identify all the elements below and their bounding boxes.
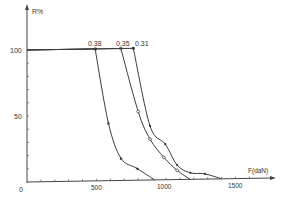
dot-marker-icon: [164, 143, 166, 145]
x-axis-label: F(daN): [248, 167, 268, 175]
dot-marker-icon: [176, 164, 178, 166]
circle-marker-icon: [137, 110, 140, 113]
series-label-0.31: 0.31: [135, 40, 149, 47]
origin-label: 0: [19, 186, 23, 193]
y-tick-label-50: 50: [14, 113, 22, 120]
circle-marker-icon: [149, 138, 152, 141]
x-tick-label-1000: 1000: [157, 183, 172, 190]
y-axis-label: R%: [32, 8, 43, 15]
x-tick-label-1500: 1500: [228, 182, 243, 189]
x-axis-arrow-icon: [270, 176, 276, 180]
dot-marker-icon: [149, 125, 151, 127]
series-line-0.31: [27, 48, 222, 179]
series-label-0.38: 0.38: [88, 40, 102, 47]
x-tick-label-500: 500: [91, 184, 102, 191]
chart: R% F(daN) 0 100 50 500 1000 1500 0.38 0.…: [0, 0, 287, 199]
dot-marker-icon: [189, 172, 191, 174]
axes: [25, 4, 276, 183]
series-line-0.35: [27, 48, 190, 179]
y-axis-arrow-icon: [25, 4, 29, 10]
dot-marker-icon: [204, 173, 206, 175]
circle-marker-icon: [163, 156, 166, 159]
curves: [27, 47, 222, 180]
corner-marker-icon: [132, 47, 134, 49]
series-label-0.35: 0.35: [116, 40, 130, 47]
circle-marker-icon: [176, 169, 179, 172]
series-line-0.38: [27, 49, 155, 180]
y-tick-label-100: 100: [10, 47, 22, 54]
